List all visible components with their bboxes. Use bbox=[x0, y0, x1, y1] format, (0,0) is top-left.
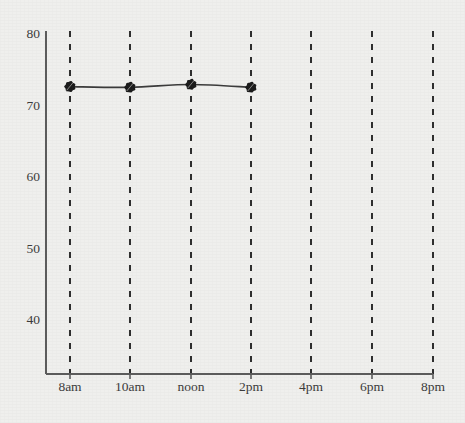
xtick-label-10am: 10am bbox=[115, 379, 145, 394]
ytick-label-40: 40 bbox=[27, 312, 41, 327]
xtick-label-2pm: 2pm bbox=[239, 379, 264, 394]
xtick-label-noon: noon bbox=[178, 379, 205, 394]
xtick-label-8pm: 8pm bbox=[421, 379, 446, 394]
ytick-label-80: 80 bbox=[27, 26, 41, 41]
line-chart-plot: 80 70 60 50 40 8am 10am noon 2pm 4pm 6pm… bbox=[0, 0, 465, 423]
ytick-label-70: 70 bbox=[27, 98, 41, 113]
ytick-label-50: 50 bbox=[27, 241, 41, 256]
ytick-label-60: 60 bbox=[27, 169, 41, 184]
data-point-marker bbox=[65, 82, 75, 91]
data-point-marker bbox=[125, 82, 135, 91]
xtick-label-4pm: 4pm bbox=[299, 379, 324, 394]
xtick-label-6pm: 6pm bbox=[360, 379, 385, 394]
xtick-label-8am: 8am bbox=[58, 379, 82, 394]
data-point-marker bbox=[186, 80, 196, 89]
data-point-marker bbox=[246, 82, 256, 91]
chart-container: 80 70 60 50 40 8am 10am noon 2pm 4pm 6pm… bbox=[0, 0, 465, 423]
